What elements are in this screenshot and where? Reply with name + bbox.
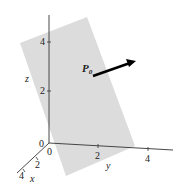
z-tick-label-2: 2 [40,85,45,96]
diagram-canvas: 4 2 0 z 2 4 0 y 2 4 x P0 [0,0,187,194]
z-tick-label-4: 4 [40,36,45,47]
plane-diagram: 4 2 0 z 2 4 0 y 2 4 x P0 [0,0,187,194]
x-tick-label-4: 4 [19,170,24,181]
x-axis [17,143,49,173]
arrowhead-icon [126,59,136,67]
x-tick-label-2: 2 [35,159,40,170]
plane [20,17,135,176]
x-axis-label: x [29,173,35,184]
z-axis-label: z [24,73,29,84]
y-tick-label-2: 2 [95,150,100,161]
y-axis-label: y [105,160,111,171]
z-tick-label-0: 0 [39,138,44,149]
y-tick-label-4: 4 [145,153,150,164]
y-tick-label-0: 0 [47,146,52,157]
